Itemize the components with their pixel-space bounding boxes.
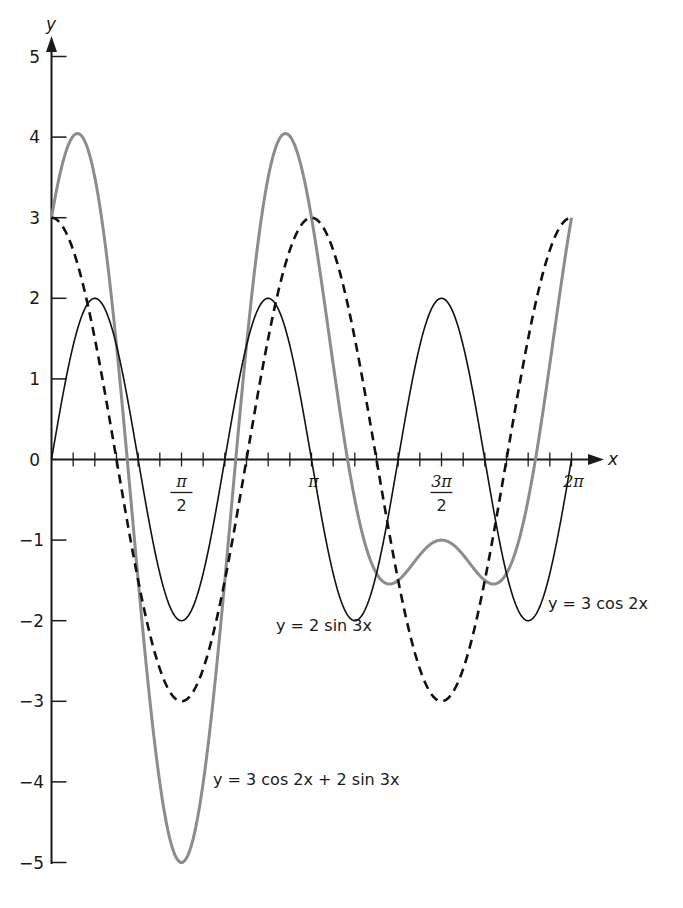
x-tick-label: 2π [562,472,584,491]
y-tick-label: 2 [29,288,40,308]
x-tick-label-numerator: π [175,472,187,491]
axes: y x 543210−1−2−3−4−5 π2π3π22π [19,14,619,873]
label-cos-curve: y = 3 cos 2x [548,594,648,613]
y-tick-label: −3 [19,691,44,711]
y-tick-label: −4 [19,772,44,792]
label-sum-curve: y = 3 cos 2x + 2 sin 3x [213,770,399,789]
y-axis-arrow-icon [46,36,57,52]
label-sin-curve: y = 2 sin 3x [276,616,372,635]
y-tick-label: 4 [29,127,40,147]
y-tick-label: 5 [29,47,40,67]
y-tick-label: 0 [29,450,40,470]
y-tick-label: −5 [19,853,44,873]
y-axis-label: y [45,14,57,34]
curve-sum [52,133,572,862]
x-axis-arrow-icon [588,454,604,465]
chart-canvas: y x 543210−1−2−3−4−5 π2π3π22π y = 2 sin … [0,0,683,908]
y-tick-label: 1 [29,369,40,389]
x-tick-label-numerator: 3π [431,472,452,491]
y-tick-label: 3 [29,208,40,228]
y-tick-label: −1 [19,530,44,550]
x-axis-label: x [607,449,619,469]
x-tick-label-denominator: 2 [436,496,446,515]
y-tick-label: −2 [19,611,44,631]
x-tick-label-denominator: 2 [176,496,186,515]
